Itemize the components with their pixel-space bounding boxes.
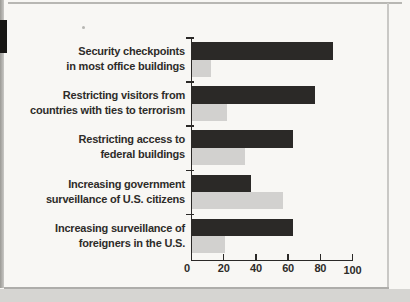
category-label: Restricting visitors from countries with…: [0, 88, 185, 118]
x-axis-tick: [287, 254, 289, 260]
y-axis-group-tick: [186, 125, 194, 127]
x-tick-label: 20: [209, 262, 239, 274]
category-label: Security checkpoints in most office buil…: [0, 44, 185, 74]
y-axis-group-tick: [186, 170, 194, 172]
x-tick-label: 100: [338, 264, 368, 276]
grouped-horizontal-bar-chart: Security checkpoints in most office buil…: [0, 0, 410, 302]
x-tick-label: 80: [305, 262, 335, 274]
y-axis-group-tick: [186, 214, 194, 216]
gray-bar: [192, 60, 211, 77]
x-axis-tick: [255, 254, 257, 260]
x-tick-label: 60: [273, 262, 303, 274]
category-label: Increasing government surveillance of U.…: [0, 177, 185, 207]
black-bar: [192, 42, 334, 60]
gray-bar: [192, 104, 227, 121]
gray-bar: [192, 148, 245, 165]
x-axis-line: [191, 260, 354, 262]
gray-bar: [192, 236, 226, 253]
black-bar: [192, 130, 293, 148]
black-bar: [192, 175, 252, 193]
x-tick-label: 0: [172, 262, 202, 274]
black-bar: [192, 86, 316, 104]
x-axis-tick: [320, 254, 322, 260]
x-axis-tick: [223, 254, 225, 260]
category-label: Restricting access to federal buildings: [0, 132, 185, 162]
black-bar: [192, 219, 293, 237]
x-tick-label: 40: [241, 262, 271, 274]
gray-bar: [192, 192, 284, 209]
category-label: Increasing surveillance of foreigners in…: [0, 221, 185, 251]
x-axis-tick: [352, 254, 354, 260]
scanned-book-page: { "theme": { "page_bg": "#f8f7f4", "oute…: [0, 0, 410, 302]
y-axis-group-tick: [186, 37, 194, 39]
y-axis-group-tick: [186, 81, 194, 83]
y-axis-line: [191, 38, 193, 260]
